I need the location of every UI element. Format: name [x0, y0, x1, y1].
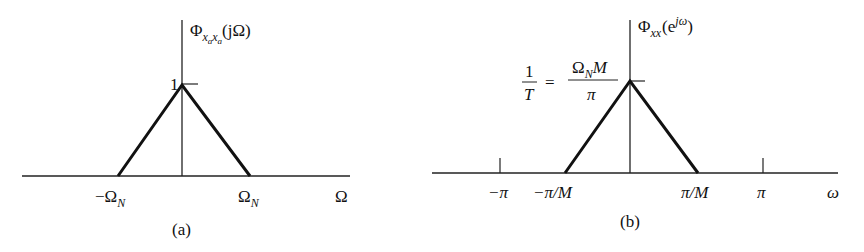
- peak-lhs-numerator: 1: [525, 62, 534, 81]
- panel-b-tick-label-neg-pi: −π: [488, 183, 508, 202]
- panel-a-triangle-spectrum: [118, 85, 250, 176]
- panel-a-tick-neg-omega-n: −ΩN: [95, 187, 126, 210]
- peak-lhs-denominator: T: [524, 85, 535, 104]
- panel-b-tick-label-neg-pi-over-m: −π/M: [533, 183, 573, 202]
- panel-b-triangle-spectrum: [565, 81, 698, 173]
- panel-b-caption: (b): [620, 212, 640, 231]
- panel-b-tick-label-pi: π: [757, 183, 766, 202]
- peak-equals-sign: =: [545, 73, 555, 92]
- panel-b-x-axis-label: ω: [827, 183, 839, 202]
- peak-rhs-numerator: ΩNM: [572, 58, 608, 81]
- panel-a-y-label: Φxaxa(jΩ): [190, 21, 251, 46]
- panel-a-x-axis-label: Ω: [335, 187, 348, 206]
- panel-b-peak-label: 1 T = ΩNM π: [522, 58, 618, 104]
- panel-a-caption: (a): [172, 220, 191, 239]
- peak-rhs-denominator: π: [587, 85, 596, 104]
- panel-a: Φxaxa(jΩ) 1 −ΩN ΩN Ω (a): [22, 20, 350, 239]
- figure-canvas: Φxaxa(jΩ) 1 −ΩN ΩN Ω (a) Φxx(ejω) 1 T = …: [0, 0, 864, 252]
- panel-b-y-label: Φxx(ejω): [638, 14, 693, 40]
- panel-b: Φxx(ejω) 1 T = ΩNM π −π −π/M π/M π ω (b): [432, 14, 839, 231]
- panel-a-peak-label: 1: [170, 75, 179, 94]
- panel-a-tick-omega-n: ΩN: [238, 187, 260, 210]
- panel-b-tick-label-pi-over-m: π/M: [681, 183, 709, 202]
